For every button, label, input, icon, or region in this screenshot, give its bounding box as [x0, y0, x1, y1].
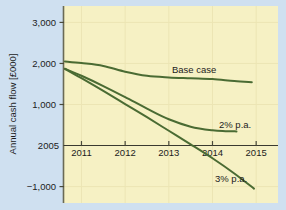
x-tick-label-2013: 2013 — [158, 147, 179, 158]
x-tick-label-2015: 2015 — [246, 147, 267, 158]
x-tick-label-2011: 2011 — [71, 147, 91, 158]
annual-cash-flow-line-chart: 3,0002,0001,000−1,000 201120122013201420… — [0, 0, 286, 210]
series-label-base-case: Base case — [172, 64, 216, 75]
y-axis-title: Annual cash flow [£000] — [7, 54, 18, 155]
y-tick-label-2,000: 2,000 — [32, 58, 56, 69]
series-label-2-p-a: 2% p.a. — [219, 119, 251, 130]
y-tick-label-1,000: 1,000 — [32, 99, 56, 110]
series-label-3-p-a: 3% p.a. — [215, 173, 247, 184]
origin-year-label: 2005 — [38, 140, 59, 151]
chart-figure: 3,0002,0001,000−1,000 201120122013201420… — [0, 0, 286, 210]
x-tick-label-2012: 2012 — [115, 147, 136, 158]
y-tick-label-3,000: 3,000 — [32, 17, 56, 28]
y-tick-label-−1,000: −1,000 — [27, 181, 56, 192]
